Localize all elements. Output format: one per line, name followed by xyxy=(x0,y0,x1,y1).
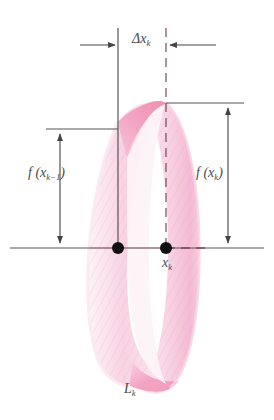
label-delta-x-base: Δx xyxy=(132,31,146,46)
label-f-x-k-minus-1-suffix: ) xyxy=(60,165,65,180)
label-L-k: Lk xyxy=(124,382,136,396)
label-f-x-k-prefix: f (x xyxy=(196,165,214,180)
label-f-x-k: f (xk) xyxy=(196,166,223,180)
label-f-x-k-suffix: ) xyxy=(218,165,223,180)
frustum-diagram-svg xyxy=(0,0,274,420)
label-x-k-sub: k xyxy=(168,262,172,272)
label-f-x-k-minus-1-sub: k−1 xyxy=(46,172,60,182)
label-delta-x: Δxk xyxy=(132,32,150,46)
label-f-x-k-sub: k xyxy=(214,172,218,182)
diagram-canvas: Δxk f (xk−1) f (xk) xk Lk xyxy=(0,0,274,420)
label-x-k: xk xyxy=(162,256,172,270)
label-f-x-k-minus-1-prefix: f (x xyxy=(28,165,46,180)
label-L-k-sub: k xyxy=(132,388,136,398)
point-x-k-minus-1 xyxy=(112,242,124,254)
frustum-band xyxy=(88,101,200,394)
label-L-k-base: L xyxy=(124,381,132,396)
label-delta-x-sub: k xyxy=(146,38,150,48)
point-x-k xyxy=(160,242,172,254)
label-f-x-k-minus-1: f (xk−1) xyxy=(28,166,65,180)
